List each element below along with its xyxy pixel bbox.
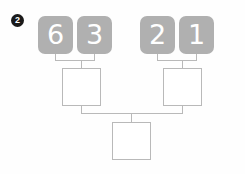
connector-bar-right — [157, 60, 197, 61]
tile-value-4: 1 — [179, 16, 214, 54]
connector-bar-bottom — [81, 113, 183, 114]
worksheet-diagram: 2 6 3 2 1 — [0, 0, 245, 174]
tile-value-3: 2 — [140, 16, 175, 54]
answer-box-middle-left[interactable] — [62, 68, 101, 106]
answer-box-middle-right[interactable] — [163, 68, 202, 106]
connector-bar-left — [55, 60, 95, 61]
problem-number-badge: 2 — [11, 14, 24, 27]
answer-box-bottom[interactable] — [112, 122, 151, 160]
tile-value-2: 3 — [77, 16, 112, 54]
tile-value-1: 6 — [38, 16, 73, 54]
